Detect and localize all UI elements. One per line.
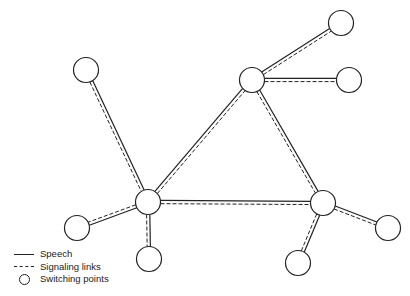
speech-line — [262, 28, 330, 72]
signaling-line — [147, 215, 148, 247]
legend-signaling-label: Signaling links — [40, 261, 101, 274]
switching-point-n8 — [311, 191, 336, 216]
speech-line — [150, 214, 151, 246]
signaling-line — [263, 31, 331, 75]
link-n8-n9 — [334, 206, 377, 225]
signaling-line — [334, 209, 376, 225]
switching-point-n3 — [65, 216, 90, 241]
signaling-line — [157, 91, 245, 194]
link-n5-n6 — [262, 28, 332, 74]
legend-switching: Switching points — [14, 273, 109, 286]
link-n5-n7 — [265, 78, 337, 81]
link-n2-n5 — [155, 88, 245, 193]
switching-point-n5 — [240, 68, 265, 93]
speech-line — [304, 215, 319, 252]
switching-point-n1 — [74, 58, 99, 83]
legend-speech-label: Speech — [40, 248, 72, 261]
link-n2-n3 — [88, 205, 137, 225]
legend-speech: Speech — [14, 248, 109, 261]
link-n5-n8 — [257, 90, 318, 193]
switching-point-n10 — [286, 251, 311, 276]
link-n1-n2 — [90, 81, 144, 192]
legend: Speech Signaling links Switching points — [14, 248, 109, 286]
speech-line — [260, 90, 319, 191]
speech-line — [93, 81, 144, 190]
legend-signaling: Signaling links — [14, 261, 109, 274]
signaling-line — [257, 92, 316, 193]
switching-point-n7 — [337, 68, 362, 93]
switching-point-n9 — [376, 216, 401, 241]
signaling-line — [160, 204, 310, 205]
signaling-line — [90, 82, 141, 191]
link-n2-n4 — [147, 214, 151, 246]
solid-line-icon — [14, 254, 34, 255]
legend-switching-label: Switching points — [40, 273, 109, 286]
speech-line — [335, 206, 377, 222]
switching-point-n2 — [136, 190, 161, 215]
signaling-line — [301, 214, 316, 251]
dashed-line-icon — [14, 266, 34, 267]
link-n8-n10 — [301, 214, 319, 252]
switching-point-n4 — [137, 247, 162, 272]
circle-icon — [19, 274, 30, 285]
speech-line — [155, 88, 243, 191]
speech-line — [89, 208, 137, 225]
link-n2-n8 — [160, 200, 310, 204]
signaling-line — [88, 205, 136, 222]
switching-point-n6 — [329, 11, 354, 36]
speech-line — [161, 200, 311, 201]
